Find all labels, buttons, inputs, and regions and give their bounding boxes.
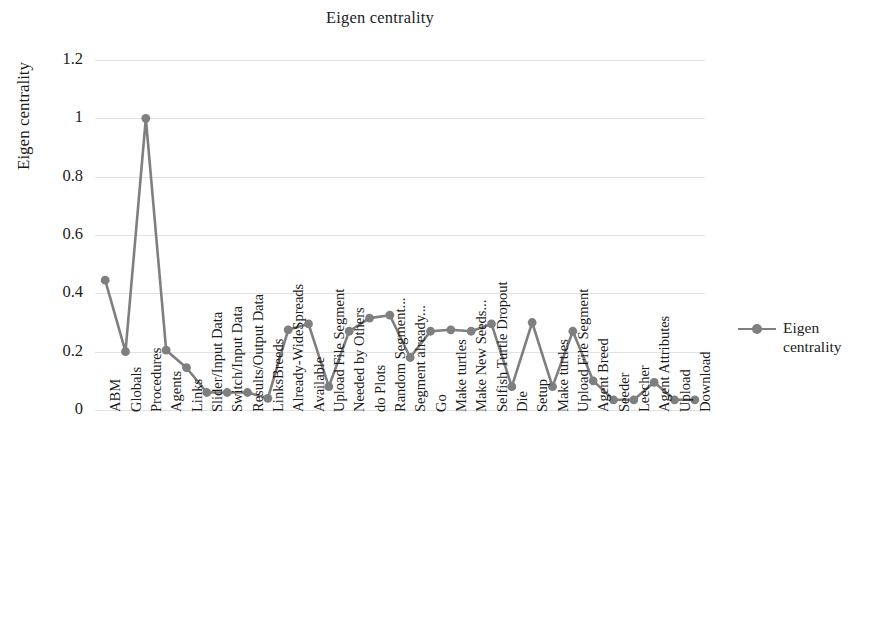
y-axis-tick-label: 1.2: [23, 51, 83, 68]
y-axis-tick-labels: 00.20.40.60.811.2: [15, 60, 83, 410]
legend-label-line1: Eigen: [783, 318, 871, 337]
legend-entry-eigen-centrality: Eigen centrality: [738, 318, 888, 357]
y-axis-tick-label: 0.2: [23, 343, 83, 360]
data-point: [121, 347, 130, 356]
y-axis-tick-label: 0.8: [23, 168, 83, 185]
data-point: [141, 114, 150, 123]
legend: Eigen centrality: [738, 318, 888, 357]
y-axis-tick-label: 1: [23, 109, 83, 126]
y-axis-tick-label: 0: [23, 401, 83, 418]
data-point: [446, 325, 455, 334]
y-axis-tick-label: 0.4: [23, 284, 83, 301]
y-axis-tick-label: 0.6: [23, 226, 83, 243]
chart-title: Eigen centrality: [0, 8, 760, 28]
data-point: [101, 276, 110, 285]
legend-label-line2: centrality: [783, 337, 871, 356]
eigen-centrality-chart: Eigen centrality Eigen centrality 00.20.…: [0, 0, 893, 628]
data-point: [528, 318, 537, 327]
x-axis-tick-labels: ABMGlobalsProceduresAgentsLinksSlider/In…: [95, 414, 705, 614]
legend-marker-icon: [738, 321, 776, 337]
legend-label: Eigen centrality: [783, 318, 871, 357]
